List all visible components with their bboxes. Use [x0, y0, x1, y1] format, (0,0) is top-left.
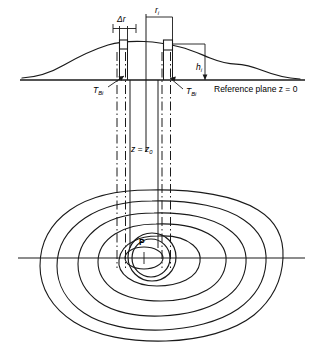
point-p-label: P [139, 237, 145, 247]
prism-right-group [164, 40, 173, 80]
contour-map-group: P [18, 190, 305, 341]
t-bi-right-label: TBi [186, 86, 197, 97]
diagram-svg: Δr ri hi TBi TBi [0, 0, 323, 356]
summit-circle-outer [128, 233, 176, 281]
h-i-arrowhead [203, 75, 208, 81]
terrain-profile-curve [22, 41, 300, 79]
z-equals-z0-label: z = z0 [130, 144, 153, 155]
delta-r-dimension [113, 24, 136, 40]
reference-plane-label: Reference plane z = 0 [214, 84, 298, 94]
h-i-label: hi [196, 62, 203, 73]
cross-section-group: Δr ri hi TBi TBi [20, 5, 305, 97]
r-i-label: ri [155, 5, 160, 16]
t-bi-left-label: TBi [93, 85, 104, 96]
prism-right-block [164, 40, 173, 50]
prism-left-group [120, 40, 128, 80]
contour-line-1 [119, 236, 200, 286]
figure-canvas: Δr ri hi TBi TBi [0, 0, 323, 356]
prism-left-block [120, 40, 128, 49]
delta-r-label: Δr [116, 14, 127, 24]
